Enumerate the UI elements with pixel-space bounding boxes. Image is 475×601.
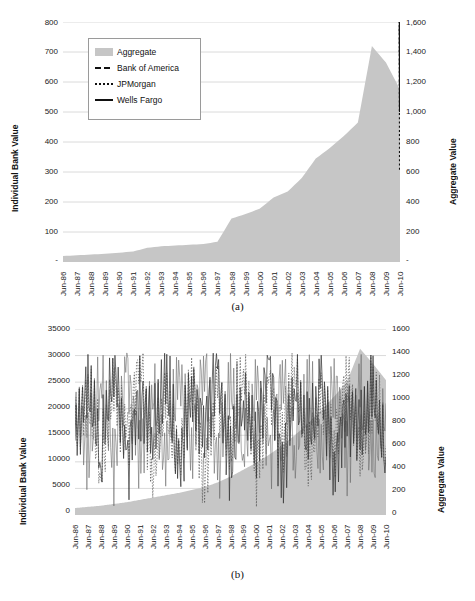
x-axis-tick-label: Jun-91 xyxy=(136,519,145,549)
panel-b-y2tick-7: 200 xyxy=(392,485,426,494)
panel-a-y2tick-6: 400 xyxy=(406,197,442,206)
x-axis-tick-label: Jun-92 xyxy=(143,266,152,296)
panel-a-y2tick-4: 800 xyxy=(406,137,442,146)
panel-a-ytick-1: 700 xyxy=(24,47,58,56)
panel-b-y2tick-3: 1000 xyxy=(392,393,426,402)
panel-a-ytick-2: 600 xyxy=(24,77,58,86)
panel-a-ytick-8: - xyxy=(24,255,58,264)
x-axis-tick-label: Jun-86 xyxy=(71,519,80,549)
legend-item-aggregate[interactable]: Aggregate xyxy=(95,44,194,60)
x-axis-tick-label: Jun-95 xyxy=(188,519,197,549)
x-axis-tick-label: Jun-92 xyxy=(149,519,158,549)
x-axis-tick-label: Jun-09 xyxy=(369,519,378,549)
x-axis-tick-label: Jun-00 xyxy=(252,519,261,549)
panel-b-ytick-6: 5000 xyxy=(30,480,70,489)
x-axis-tick-label: Jun-90 xyxy=(123,519,132,549)
panel-a-ytick-4: 400 xyxy=(24,137,58,146)
panel-a-ytick-5: 300 xyxy=(24,167,58,176)
x-axis-tick-label: Jun-98 xyxy=(227,519,236,549)
x-axis-tick-label: Jun-09 xyxy=(382,266,391,296)
panel-b-ytick-5: 10000 xyxy=(30,454,70,463)
legend-item-wells-fargo[interactable]: Wells Fargo xyxy=(95,92,194,108)
x-axis-tick-label: Jun-01 xyxy=(270,266,279,296)
x-axis-tick-label: Jun-95 xyxy=(185,266,194,296)
panel-a-ytick-7: 100 xyxy=(24,227,58,236)
x-axis-tick-label: Jun-90 xyxy=(115,266,124,296)
x-axis-tick-label: Jun-91 xyxy=(129,266,138,296)
panel-a-y2tick-8: - xyxy=(406,255,442,264)
panel-a-y2tick-2: 1,200 xyxy=(406,77,442,86)
figure-container: Individual Bank Value Aggregate Value 80… xyxy=(0,0,475,601)
panel-b-y2tick-4: 800 xyxy=(392,416,426,425)
x-axis-tick-label: Jun-86 xyxy=(59,266,68,296)
panel-b-ytick-4: 15000 xyxy=(30,428,70,437)
panel-b-y2tick-1: 1400 xyxy=(392,347,426,356)
legend-label-wells-fargo: Wells Fargo xyxy=(117,95,162,105)
aggregate-swatch-icon xyxy=(95,48,113,56)
x-axis-tick-label: Jun-94 xyxy=(171,266,180,296)
panel-a-y2tick-1: 1,400 xyxy=(406,47,442,56)
x-axis-tick-label: Jun-01 xyxy=(265,519,274,549)
x-axis-tick-label: Jun-97 xyxy=(214,519,223,549)
legend-item-bank-of-america[interactable]: Bank of America xyxy=(95,60,194,76)
x-axis-tick-label: Jun-10 xyxy=(396,266,405,296)
wells-fargo-swatch-icon xyxy=(95,96,113,104)
x-axis-tick-label: Jun-06 xyxy=(340,266,349,296)
x-axis-tick-label: Jun-89 xyxy=(101,266,110,296)
x-axis-tick-label: Jun-03 xyxy=(291,519,300,549)
panel-b-ytick-7: 0 xyxy=(30,506,70,515)
x-axis-tick-label: Jun-89 xyxy=(110,519,119,549)
x-axis-tick-label: Jun-04 xyxy=(312,266,321,296)
x-axis-tick-label: Jun-88 xyxy=(87,266,96,296)
panel-b-ytick-1: 30000 xyxy=(30,350,70,359)
legend-label-bank-of-america: Bank of America xyxy=(117,63,179,73)
panel-a-left-axis-title: Individual Bank Value xyxy=(10,82,20,212)
x-axis-tick-label: Jun-96 xyxy=(199,266,208,296)
panel-b-ytick-3: 20000 xyxy=(30,402,70,411)
x-axis-tick-label: Jun-08 xyxy=(368,266,377,296)
x-axis-tick-label: Jun-02 xyxy=(284,266,293,296)
panel-a-ytick-6: 200 xyxy=(24,197,58,206)
x-axis-tick-label: Jun-04 xyxy=(304,519,313,549)
x-axis-tick-label: Jun-02 xyxy=(278,519,287,549)
panel-a-y2tick-3: 1,000 xyxy=(406,107,442,116)
panel-b-y2tick-5: 600 xyxy=(392,439,426,448)
x-axis-tick-label: Jun-97 xyxy=(213,266,222,296)
x-axis-tick-label: Jun-07 xyxy=(354,266,363,296)
x-axis-tick-label: Jun-10 xyxy=(382,519,391,549)
x-axis-tick-label: Jun-07 xyxy=(343,519,352,549)
x-axis-tick-label: Jun-94 xyxy=(175,519,184,549)
x-axis-tick-label: Jun-05 xyxy=(317,519,326,549)
panel-b-right-axis-title: Aggregate Value xyxy=(436,398,446,513)
x-axis-tick-label: Jun-96 xyxy=(201,519,210,549)
panel-b-caption: (b) xyxy=(0,568,475,580)
x-axis-tick-label: Jun-98 xyxy=(228,266,237,296)
x-axis-tick-label: Jun-87 xyxy=(73,266,82,296)
panel-b-y2tick-2: 1200 xyxy=(392,370,426,379)
x-axis-tick-label: Jun-93 xyxy=(162,519,171,549)
legend-item-jpmorgan[interactable]: JPMorgan xyxy=(95,76,194,92)
legend-label-jpmorgan: JPMorgan xyxy=(117,79,156,89)
panel-a-y2tick-5: 600 xyxy=(406,167,442,176)
panel-b-plot-area xyxy=(75,329,386,515)
panel-b-left-axis-title: Individual Bank Value xyxy=(18,395,28,525)
panel-b-y2tick-6: 400 xyxy=(392,462,426,471)
x-axis-tick-label: Jun-08 xyxy=(356,519,365,549)
panel-b-y2tick-0: 1600 xyxy=(392,324,426,333)
x-axis-tick-label: Jun-88 xyxy=(97,519,106,549)
x-axis-tick-label: Jun-99 xyxy=(239,519,248,549)
panel-a-y2tick-7: 200 xyxy=(406,227,442,236)
panel-b-ytick-2: 25000 xyxy=(30,376,70,385)
panel-a-legend: Aggregate Bank of America JPMorgan Wells… xyxy=(88,38,201,120)
x-axis-tick-label: Jun-99 xyxy=(242,266,251,296)
x-axis-tick-label: Jun-05 xyxy=(326,266,335,296)
panel-a-ytick-0: 800 xyxy=(24,18,58,27)
panel-a-y2tick-0: 1,600 xyxy=(406,18,442,27)
jpmorgan-swatch-icon xyxy=(95,80,113,88)
x-axis-tick-label: Jun-03 xyxy=(298,266,307,296)
panel-b-y2tick-8: 0 xyxy=(392,508,426,517)
x-axis-tick-label: Jun-87 xyxy=(84,519,93,549)
panel-b-ytick-0: 35000 xyxy=(30,324,70,333)
x-axis-tick-label: Jun-93 xyxy=(157,266,166,296)
x-axis-tick-label: Jun-06 xyxy=(330,519,339,549)
